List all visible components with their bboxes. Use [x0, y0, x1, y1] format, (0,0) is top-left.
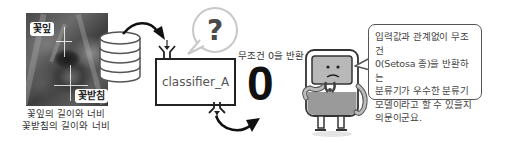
speech-line-4: 모델이라고 할 수 있을지 [375, 98, 475, 112]
speech-line-5: 의문이군요. [375, 111, 475, 125]
sepal-length-guide [70, 65, 71, 101]
arrow-classifier-to-output [212, 112, 262, 142]
classifier-label: classifier_A [162, 75, 229, 89]
petal-length-guide [64, 27, 65, 57]
speech-line-1: 입력값과 관계없이 무조건 [375, 30, 475, 57]
petal-label: 꽃잎 [30, 22, 54, 36]
photo-caption: 꽃잎의 길이와 너비 꽃받침의 길이와 너비 [10, 108, 122, 132]
speech-line-2: 0(Setosa 종)을 반환하는 [375, 57, 475, 84]
question-mark-icon: ? [207, 14, 223, 47]
caption-line-sepal: 꽃받침의 길이와 너비 [10, 120, 122, 132]
petal-width-guide [56, 41, 72, 42]
sepal-width-guide [54, 85, 88, 86]
classifier-input-port [156, 38, 178, 60]
classifier-box: classifier_A [155, 58, 236, 106]
sepal-label: 꽃받침 [75, 89, 108, 103]
question-bubble-tail [186, 38, 206, 56]
output-value: 0 [247, 60, 274, 108]
iris-flower-photo: 꽃잎 꽃받침 [26, 13, 108, 106]
speech-line-3: 분류기가 우수한 분류기 [375, 84, 475, 98]
speech-bubble: 입력값과 관계없이 무조건 0(Setosa 종)을 반환하는 분류기가 우수한… [368, 24, 482, 100]
caption-line-petal: 꽃잎의 길이와 너비 [10, 108, 122, 120]
